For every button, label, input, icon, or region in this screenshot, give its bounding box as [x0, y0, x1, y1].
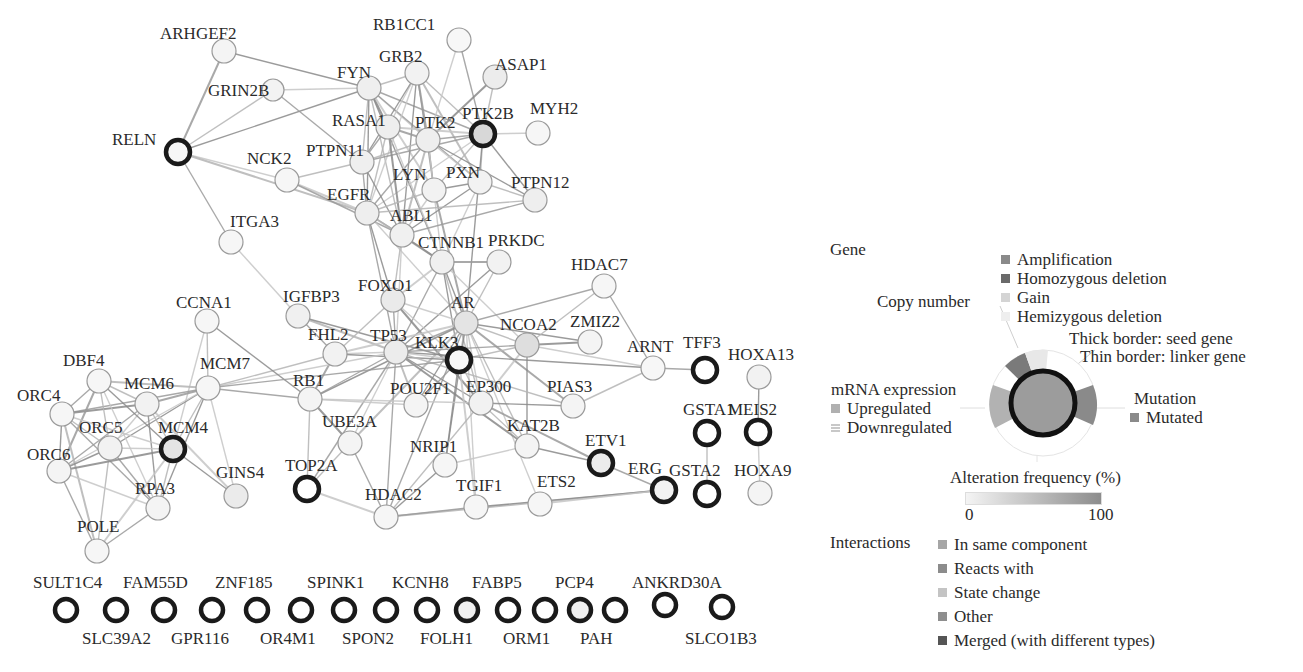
linker-gene-circle[interactable]: [561, 394, 585, 418]
linker-gene-circle[interactable]: [390, 223, 414, 247]
gene-node-myh2[interactable]: MYH2: [526, 99, 578, 145]
gene-node-pias3[interactable]: PIAS3: [547, 377, 592, 418]
linker-gene-circle[interactable]: [487, 250, 511, 274]
orphan-seed-gene-node[interactable]: [55, 599, 77, 621]
gene-node-orc6[interactable]: ORC6: [27, 445, 71, 483]
gene-node-arnt[interactable]: ARNT: [627, 337, 674, 380]
seed-gene-circle[interactable]: [161, 437, 185, 461]
linker-gene-circle[interactable]: [286, 304, 310, 328]
gene-node-ptpn11[interactable]: PTPN11: [306, 141, 374, 174]
gene-node-tgif1[interactable]: TGIF1: [456, 476, 502, 519]
linker-gene-circle[interactable]: [323, 342, 347, 366]
orphan-seed-gene-node[interactable]: [497, 599, 519, 621]
linker-gene-circle[interactable]: [374, 505, 398, 529]
gene-node-prkdc[interactable]: PRKDC: [487, 231, 545, 274]
gene-node-nrip1[interactable]: NRIP1: [410, 437, 457, 477]
seed-gene-circle[interactable]: [695, 482, 719, 506]
orphan-seed-gene-node[interactable]: [604, 599, 626, 621]
linker-gene-circle[interactable]: [87, 369, 111, 393]
gene-node-hoxa13[interactable]: HOXA13: [728, 345, 794, 389]
gene-node-mcm7[interactable]: MCM7: [196, 354, 251, 400]
gene-node-arhgef2[interactable]: ARHGEF2: [160, 24, 237, 63]
gene-node-tff3[interactable]: TFF3: [683, 333, 721, 382]
linker-gene-circle[interactable]: [592, 274, 616, 298]
linker-gene-circle[interactable]: [298, 387, 322, 411]
linker-gene-circle[interactable]: [219, 230, 243, 254]
linker-gene-circle[interactable]: [515, 434, 539, 458]
linker-gene-circle[interactable]: [195, 309, 219, 333]
gene-node-rb1[interactable]: RB1: [293, 371, 324, 411]
gene-node-mcm4[interactable]: MCM4: [158, 418, 209, 461]
linker-gene-circle[interactable]: [98, 436, 122, 460]
orphan-seed-gene-node[interactable]: [711, 596, 733, 618]
linker-gene-circle[interactable]: [515, 333, 539, 357]
orphan-seed-gene-node[interactable]: [456, 599, 478, 621]
seed-gene-circle[interactable]: [589, 451, 613, 475]
orphan-seed-gene-node[interactable]: [534, 599, 556, 621]
linker-gene-circle[interactable]: [85, 539, 109, 563]
seed-gene-circle[interactable]: [295, 477, 319, 501]
orphan-seed-gene-node[interactable]: [105, 599, 127, 621]
gene-node-hdac7[interactable]: HDAC7: [571, 255, 628, 298]
linker-gene-circle[interactable]: [355, 201, 379, 225]
gene-node-gsta2[interactable]: GSTA2: [669, 461, 721, 506]
linker-gene-circle[interactable]: [747, 365, 771, 389]
gene-node-lyn[interactable]: LYN: [393, 165, 446, 202]
gene-node-hoxa9[interactable]: HOXA9: [734, 461, 792, 505]
orphan-seed-gene-node[interactable]: [333, 599, 355, 621]
seed-gene-circle[interactable]: [746, 420, 770, 444]
gene-node-dbf4[interactable]: DBF4: [63, 351, 111, 393]
linker-gene-circle[interactable]: [338, 431, 362, 455]
linker-gene-circle[interactable]: [464, 495, 488, 519]
gene-node-rasa1[interactable]: RASA1: [332, 111, 400, 139]
linker-gene-circle[interactable]: [578, 330, 602, 354]
seed-gene-circle[interactable]: [471, 122, 495, 146]
gene-node-ep300[interactable]: EP300: [466, 377, 511, 415]
gene-node-ptk2b[interactable]: PTK2B: [462, 104, 514, 146]
linker-gene-circle[interactable]: [641, 356, 665, 380]
linker-gene-circle[interactable]: [430, 250, 454, 274]
gene-node-zmiz2[interactable]: ZMIZ2: [570, 312, 620, 354]
linker-gene-circle[interactable]: [433, 453, 457, 477]
linker-gene-circle[interactable]: [526, 121, 550, 145]
gene-node-fyn[interactable]: FYN: [337, 63, 381, 100]
orphan-seed-gene-node[interactable]: [153, 599, 175, 621]
gene-node-gsta1[interactable]: GSTA1: [683, 400, 735, 445]
orphan-seed-gene-node[interactable]: [246, 599, 268, 621]
linker-gene-circle[interactable]: [146, 496, 170, 520]
linker-gene-circle[interactable]: [275, 168, 299, 192]
gene-node-etv1[interactable]: ETV1: [585, 431, 627, 475]
gene-node-meis2[interactable]: MEIS2: [728, 400, 777, 444]
gene-node-ets2[interactable]: ETS2: [528, 472, 576, 516]
gene-node-top2a[interactable]: TOP2A: [285, 456, 338, 501]
gene-node-grb2[interactable]: GRB2: [379, 47, 429, 85]
gene-node-asap1[interactable]: ASAP1: [483, 55, 547, 89]
orphan-seed-gene-node[interactable]: [201, 599, 223, 621]
gene-node-ptpn12[interactable]: PTPN12: [511, 173, 570, 212]
linker-gene-circle[interactable]: [454, 311, 478, 335]
seed-gene-circle[interactable]: [166, 140, 190, 164]
gene-node-egfr[interactable]: EGFR: [327, 185, 379, 225]
gene-node-rpa3[interactable]: RPA3: [135, 479, 175, 520]
seed-gene-circle[interactable]: [693, 358, 717, 382]
gene-node-ube3a[interactable]: UBE3A: [322, 412, 378, 455]
seed-gene-circle[interactable]: [652, 478, 676, 502]
gene-node-orc4[interactable]: ORC4: [17, 386, 74, 426]
linker-gene-circle[interactable]: [748, 481, 772, 505]
linker-gene-circle[interactable]: [528, 492, 552, 516]
orphan-seed-gene-node[interactable]: [375, 599, 397, 621]
orphan-seed-gene-node[interactable]: [290, 599, 312, 621]
gene-node-reln[interactable]: RELN: [112, 130, 190, 164]
gene-node-grin2b[interactable]: GRIN2B: [208, 79, 284, 101]
gene-node-gins4[interactable]: GINS4: [216, 463, 265, 508]
gene-node-pou2f1[interactable]: POU2F1: [390, 379, 450, 417]
gene-node-itga3[interactable]: ITGA3: [219, 212, 279, 254]
gene-node-foxo1[interactable]: FOXO1: [358, 276, 413, 312]
gene-node-ar[interactable]: AR: [451, 293, 478, 335]
linker-gene-circle[interactable]: [224, 484, 248, 508]
linker-gene-circle[interactable]: [196, 376, 220, 400]
gene-node-hdac2[interactable]: HDAC2: [365, 485, 422, 529]
gene-node-ccna1[interactable]: CCNA1: [176, 293, 232, 333]
linker-gene-circle[interactable]: [447, 28, 471, 52]
gene-node-nck2[interactable]: NCK2: [247, 149, 299, 192]
